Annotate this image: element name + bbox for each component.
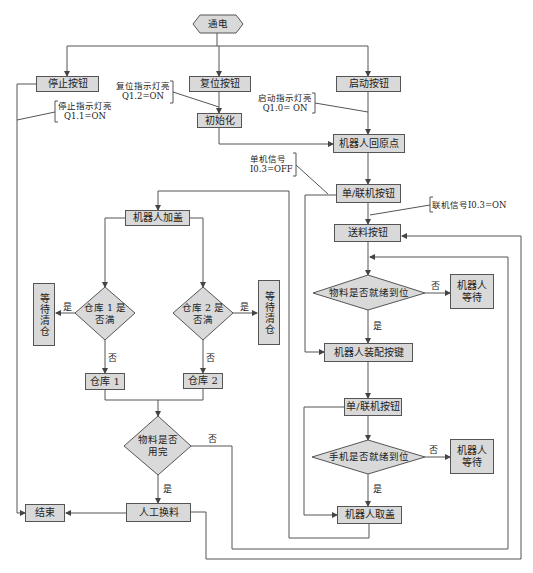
material-ready-yes-label: 是 (373, 321, 382, 331)
robot-wait-1-line2: 等待 (462, 292, 482, 304)
warehouse1-full-line1: 仓库 1 是 (84, 302, 126, 314)
power-on-label: 通电 (193, 15, 243, 33)
single-signal-annotation: 单机信号 I0.3=OFF (250, 154, 294, 174)
warehouse2-node: 仓库 2 (183, 373, 223, 389)
start-light-annotation: 启动指示灯亮 Q1.0= ON (256, 93, 314, 113)
wh1-yes-label: 是 (63, 302, 72, 312)
robot-wait-2-line2: 等待 (462, 457, 482, 469)
assembly-button-node: 机器人装配按键 (324, 343, 413, 362)
stop-button-node: 停止按钮 (36, 76, 99, 92)
warehouse1-full-line2: 否满 (95, 314, 115, 326)
warehouse2-full-line1: 仓库 2 是 (182, 302, 224, 314)
material-used-yes-label: 是 (163, 484, 172, 494)
robot-wait-2-line1: 机器人 (457, 445, 487, 457)
warehouse1-full-decision: 仓库 1 是 否满 (75, 287, 135, 340)
start-light-line2: Q1.0= ON (256, 103, 314, 113)
single-signal-line2: I0.3=OFF (250, 164, 294, 174)
stop-light-line1: 停止指示灯亮 (57, 101, 113, 111)
reset-button-node: 复位按钮 (189, 76, 251, 92)
wh1-no-label: 否 (108, 353, 117, 363)
robot-wait-node-2: 机器人 等待 (450, 439, 494, 474)
robot-add-cover-node: 机器人加盖 (125, 210, 190, 226)
online-signal-annotation: 联机信号I0.3=ON (432, 200, 506, 210)
mode-button-node-1: 单/联机按钮 (336, 184, 401, 203)
warehouse1-node: 仓库 1 (85, 373, 125, 390)
stop-light-annotation: 停止指示灯亮 Q1.1=ON (57, 101, 113, 121)
reset-light-line1: 复位指示灯亮 (114, 81, 172, 91)
reset-light-line2: Q1.2=ON (114, 91, 172, 101)
robot-home-node: 机器人回原点 (333, 134, 405, 153)
wh2-no-label: 否 (206, 353, 215, 363)
feed-button-node: 送料按钮 (334, 224, 401, 242)
robot-wait-node-1: 机器人 等待 (450, 274, 494, 309)
material-ready-decision: 物料是否就绪到位 (313, 275, 425, 310)
init-node: 初始化 (197, 113, 242, 128)
wait-clear-right-node: 等待清仓 (258, 280, 280, 345)
start-light-line1: 启动指示灯亮 (256, 93, 314, 103)
reset-light-annotation: 复位指示灯亮 Q1.2=ON (114, 81, 172, 101)
phone-ready-yes-label: 是 (373, 484, 382, 494)
start-button-node: 启动按钮 (336, 76, 401, 92)
wait-clear-left-node: 等待清仓 (33, 283, 55, 346)
stop-light-line2: Q1.1=ON (57, 111, 113, 121)
warehouse2-full-line2: 否满 (193, 314, 213, 326)
material-used-decision: 物料是否 用完 (124, 416, 191, 475)
material-used-line2: 用完 (148, 446, 168, 458)
manual-refill-node: 人工换料 (126, 503, 191, 522)
robot-wait-1-line1: 机器人 (457, 280, 487, 292)
robot-take-cover-node: 机器人取盖 (337, 506, 402, 524)
material-used-no-label: 否 (208, 434, 217, 444)
flowchart-canvas: 通电 停止按钮 复位按钮 启动按钮 初始化 机器人回原点 单/联机按钮 送料按钮… (0, 0, 533, 573)
phone-ready-no-label: 否 (429, 445, 438, 455)
end-node: 结束 (25, 504, 65, 522)
phone-ready-decision: 手机是否就绪到位 (312, 440, 425, 474)
wh2-yes-label: 是 (240, 302, 249, 312)
single-signal-line1: 单机信号 (250, 154, 294, 164)
warehouse2-full-decision: 仓库 2 是 否满 (173, 287, 233, 340)
mode-button-node-2: 单/联机按钮 (344, 398, 402, 416)
material-ready-no-label: 否 (431, 281, 440, 291)
material-used-line1: 物料是否 (138, 434, 178, 446)
